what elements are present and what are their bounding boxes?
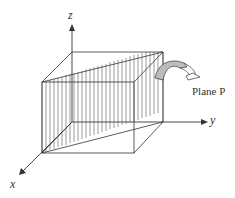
cube: [42, 52, 163, 153]
y-arrowhead-icon: [201, 119, 208, 125]
z-axis-label: z: [68, 8, 73, 23]
plane-pointer-arrow: [155, 61, 200, 80]
axis-arrowheads: [19, 24, 208, 175]
z-arrowhead-icon: [69, 24, 75, 31]
plane-label: Plane P: [192, 85, 225, 97]
diagram-canvas: [0, 0, 235, 198]
axes: [22, 28, 204, 172]
y-axis-label: y: [210, 113, 215, 128]
x-axis-label: x: [10, 177, 15, 192]
